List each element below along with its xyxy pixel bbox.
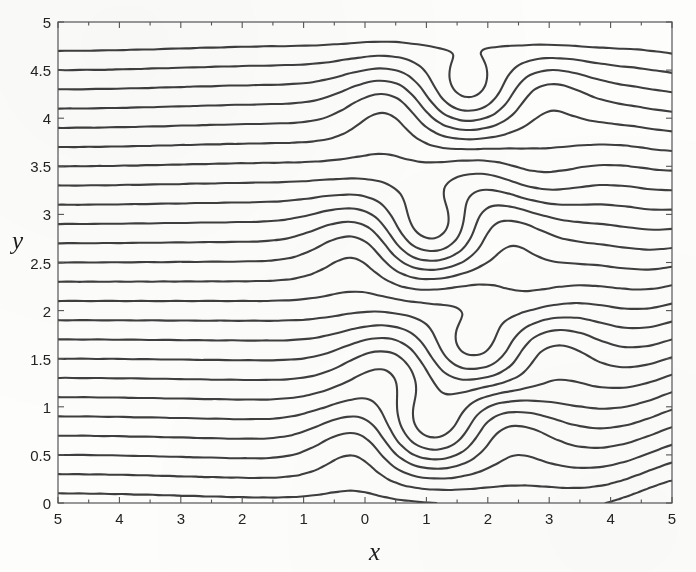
x-tick-label: 3 xyxy=(545,511,553,526)
contour-line xyxy=(58,491,436,503)
contour-lines-group xyxy=(58,42,672,503)
y-tick-label: 0.5 xyxy=(0,447,51,462)
y-tick-label: 4.5 xyxy=(0,63,51,78)
y-tick-label: 2 xyxy=(0,303,51,318)
x-tick-label: 5 xyxy=(668,511,676,526)
y-tick-label: 0 xyxy=(0,496,51,511)
y-tick-label: 2.5 xyxy=(0,255,51,270)
contour-line xyxy=(58,455,672,490)
x-tick-label: 0 xyxy=(361,511,369,526)
x-tick-label: 3 xyxy=(177,511,185,526)
x-tick-label: 4 xyxy=(115,511,123,526)
contour-line xyxy=(58,351,672,437)
contour-plot-canvas xyxy=(0,0,696,572)
x-axis-title: x xyxy=(369,539,380,564)
y-axis-title: y xyxy=(12,228,23,253)
contour-line xyxy=(58,292,672,355)
x-tick-label: 2 xyxy=(484,511,492,526)
contour-line xyxy=(58,154,672,172)
y-tick-label: 3.5 xyxy=(0,159,51,174)
y-tick-label: 5 xyxy=(0,15,51,30)
x-tick-label: 4 xyxy=(606,511,614,526)
contour-figure: 54321012345 00.511.522.533.544.55 x y xyxy=(0,0,696,572)
contour-line xyxy=(58,433,672,479)
y-tick-label: 1.5 xyxy=(0,351,51,366)
x-tick-label: 5 xyxy=(54,511,62,526)
contour-line xyxy=(58,68,672,120)
y-tick-label: 4 xyxy=(0,111,51,126)
x-tick-label: 2 xyxy=(238,511,246,526)
contour-line xyxy=(58,94,672,139)
contour-line xyxy=(58,174,672,239)
y-tick-label: 1 xyxy=(0,399,51,414)
contour-line xyxy=(58,338,672,394)
x-tick-label: 1 xyxy=(299,511,307,526)
x-tick-label: 1 xyxy=(422,511,430,526)
contour-line xyxy=(606,481,672,503)
contour-line xyxy=(58,205,672,260)
y-tick-label: 3 xyxy=(0,207,51,222)
